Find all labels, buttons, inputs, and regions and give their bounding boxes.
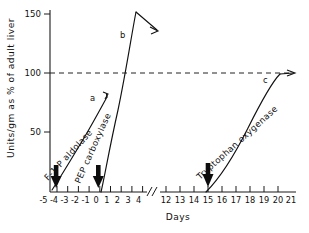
x-tick-label-n3: -3 bbox=[60, 195, 68, 205]
x-tick-label-17: 17 bbox=[231, 195, 241, 205]
curve-c-label: Tryptophan oxygenase bbox=[194, 104, 280, 183]
x-tick-label-21: 21 bbox=[286, 195, 296, 205]
curve-c-letter: c bbox=[263, 75, 268, 85]
x-tick-label-2: 2 bbox=[115, 195, 120, 205]
x-tick-label-n2: -2 bbox=[71, 195, 79, 205]
x-tick-label-n1: -1 bbox=[82, 195, 90, 205]
curve-b-descent bbox=[136, 12, 157, 30]
x-tick-label-4: 4 bbox=[136, 195, 141, 205]
x-tick-label-13: 13 bbox=[175, 195, 185, 205]
x-tick-label-15: 15 bbox=[203, 195, 213, 205]
curve-a-arrow-stem bbox=[107, 94, 108, 97]
x-tick-label-3: 3 bbox=[125, 195, 130, 205]
curve-c-plateau bbox=[280, 73, 293, 74]
x-tick-label-n4: -4 bbox=[50, 195, 58, 205]
y-tick-label-150: 150 bbox=[25, 9, 41, 19]
x-tick-label-20: 20 bbox=[273, 195, 283, 205]
x-ticks-left bbox=[57, 186, 143, 192]
y-tick-label-50: 50 bbox=[30, 127, 41, 137]
curve-b-letter: b bbox=[120, 30, 125, 40]
figure-container: 150 100 50 Units/gm as % of adult liver bbox=[0, 0, 309, 233]
curve-a-letter: a bbox=[90, 93, 95, 103]
x-tick-label-0: 0 bbox=[94, 195, 99, 205]
x-axis-title: Days bbox=[166, 212, 191, 222]
chart-svg: 150 100 50 Units/gm as % of adult liver bbox=[0, 0, 309, 233]
x-tick-label-18: 18 bbox=[245, 195, 255, 205]
y-tick-label-100: 100 bbox=[25, 68, 41, 78]
x-ticks-right bbox=[166, 186, 278, 192]
x-tick-label-1: 1 bbox=[104, 195, 109, 205]
x-tick-label-12: 12 bbox=[161, 195, 171, 205]
x-tick-label-14: 14 bbox=[189, 195, 199, 205]
curve-b-pep-carboxylase bbox=[101, 12, 136, 192]
x-tick-label-16: 16 bbox=[217, 195, 227, 205]
y-axis-title: Units/gm as % of adult liver bbox=[6, 18, 16, 158]
x-tick-label-n5: -5 bbox=[39, 195, 47, 205]
x-tick-label-19: 19 bbox=[259, 195, 269, 205]
axis-break-icon bbox=[147, 187, 157, 196]
